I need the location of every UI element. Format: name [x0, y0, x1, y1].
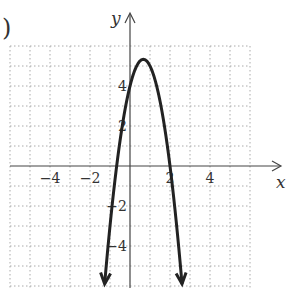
y-tick-label: 4 [118, 78, 127, 94]
y-tick-label: −2 [106, 198, 127, 214]
x-tick-label: 4 [206, 170, 215, 186]
parabola-graph: )xy−4−22442−2−4 [0, 0, 289, 293]
problem-label-paren: ) [2, 14, 11, 42]
y-axis-label: y [110, 8, 121, 28]
x-axis-label: x [276, 172, 286, 192]
x-tick-label: −2 [80, 170, 101, 186]
x-tick-label: −4 [40, 170, 61, 186]
